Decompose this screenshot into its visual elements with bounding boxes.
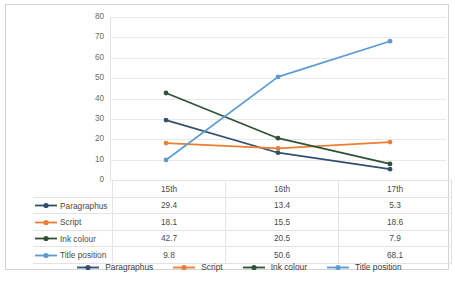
table-row: Ink colour42.720.57.9: [33, 230, 452, 247]
legend-key-icon: [35, 251, 57, 260]
table-cell-2-2: 7.9: [339, 230, 452, 247]
legend-key-icon: [35, 218, 57, 227]
y-axis-tick-labels: 80706050403020100: [72, 17, 104, 180]
legend-key-icon: [77, 263, 99, 272]
legend-item-label: Paragraphus: [105, 262, 153, 272]
table-cell-0-0: 29.4: [113, 197, 226, 214]
legend-item-ink-colour[interactable]: Ink colour: [243, 262, 307, 272]
table-cell-0-1: 13.4: [226, 197, 339, 214]
data-point-paragraphus-15th: [164, 118, 169, 123]
table-row: Paragraphus29.413.45.3: [33, 197, 452, 214]
data-point-title-position-16th: [276, 75, 281, 80]
legend-item-script[interactable]: Script: [173, 262, 222, 272]
data-point-title-position-15th: [164, 158, 169, 163]
table-cell-0-2: 5.3: [339, 197, 452, 214]
table-cell-1-2: 18.6: [339, 214, 452, 231]
figure-caption: [6, 272, 246, 285]
series-line-title-position: [166, 41, 390, 160]
legend-item-label: Ink colour: [271, 262, 307, 272]
table-cell-1-0: 18.1: [113, 214, 226, 231]
table-col-header-17th: 17th: [339, 181, 452, 198]
table-col-header-16th: 16th: [226, 181, 339, 198]
y-axis-tick-70: 70: [74, 33, 104, 41]
legend-key-icon: [35, 201, 57, 210]
data-point-paragraphus-17th: [388, 167, 393, 172]
data-point-ink-colour-15th: [164, 91, 169, 96]
legend-key-icon: [243, 263, 265, 272]
table-corner-cell: [33, 181, 113, 198]
table-row: Script18.115.518.6: [33, 214, 452, 231]
chart-screenshot: 80706050403020100 15th16th17thParagraphu…: [0, 0, 455, 287]
data-point-script-17th: [388, 140, 393, 145]
data-table: 15th16th17thParagraphus29.413.45.3Script…: [33, 180, 452, 264]
table-row-label-paragraphus: Paragraphus: [33, 197, 113, 214]
data-point-title-position-17th: [388, 39, 393, 44]
y-axis-tick-30: 30: [74, 115, 104, 123]
table-col-header-15th: 15th: [113, 181, 226, 198]
plot-area: [110, 17, 446, 180]
legend-key-icon: [173, 263, 195, 272]
legend-item-label: Title position: [355, 262, 402, 272]
legend-item-title-position[interactable]: Title position: [327, 262, 402, 272]
y-axis-tick-20: 20: [74, 135, 104, 143]
data-point-paragraphus-16th: [276, 150, 281, 155]
legend-item-label: Script: [201, 262, 222, 272]
chart-frame: 80706050403020100 15th16th17thParagraphu…: [5, 4, 449, 270]
y-axis-tick-40: 40: [74, 95, 104, 103]
table-row-label-script: Script: [33, 214, 113, 231]
legend-item-paragraphus[interactable]: Paragraphus: [77, 262, 153, 272]
y-axis-tick-50: 50: [74, 74, 104, 82]
legend-key-icon: [327, 263, 349, 272]
y-axis-tick-80: 80: [74, 13, 104, 21]
data-point-ink-colour-17th: [388, 162, 393, 167]
y-axis-tick-10: 10: [74, 156, 104, 164]
table-cell-2-1: 20.5: [226, 230, 339, 247]
data-point-ink-colour-16th: [276, 136, 281, 141]
legend-key-icon: [35, 234, 57, 243]
data-point-script-15th: [164, 141, 169, 146]
table-cell-1-1: 15.5: [226, 214, 339, 231]
data-point-script-16th: [276, 146, 281, 151]
table-cell-2-0: 42.7: [113, 230, 226, 247]
table-row-label-ink-colour: Ink colour: [33, 230, 113, 247]
series-lines: [110, 17, 446, 180]
table-header-row: 15th16th17th: [33, 181, 452, 198]
y-axis-tick-60: 60: [74, 54, 104, 62]
